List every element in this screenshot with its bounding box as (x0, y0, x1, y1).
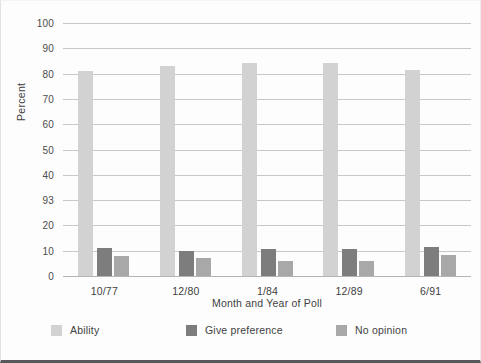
legend-item: No opinion (336, 324, 407, 336)
y-axis-tick-label: 80 (42, 68, 54, 79)
x-axis-tick-label: 1/84 (223, 285, 313, 297)
x-axis-tick-label: 6/91 (386, 285, 476, 297)
bar (242, 63, 257, 276)
bar (424, 247, 439, 276)
bar (342, 249, 357, 276)
y-axis-tick-label: 20 (42, 220, 54, 231)
x-axis-tick-label: 12/89 (304, 285, 394, 297)
bar (359, 261, 374, 276)
y-axis-tick-label: 93 (42, 195, 54, 206)
x-axis-tick-label: 12/80 (141, 285, 231, 297)
bar (278, 261, 293, 276)
bar-group: 10/77 (78, 23, 129, 276)
legend-item: Give preference (186, 324, 283, 336)
bar-groups: 10/7712/801/8412/896/91 (63, 23, 471, 276)
bar (114, 256, 129, 276)
bar (78, 71, 93, 276)
y-axis-tick-label: 10 (42, 245, 54, 256)
legend-item: Ability (51, 324, 99, 336)
bar (160, 66, 175, 276)
x-axis-title: Month and Year of Poll (63, 297, 471, 309)
legend-label: Ability (70, 324, 99, 336)
gridline (63, 276, 471, 277)
legend-label: No opinion (355, 324, 407, 336)
legend-swatch (336, 325, 347, 336)
legend-label: Give preference (205, 324, 283, 336)
y-axis-tick-label: 90 (42, 43, 54, 54)
bar-group: 12/80 (160, 23, 211, 276)
y-axis-tick-label: 0 (48, 271, 54, 282)
bar (97, 248, 112, 276)
legend-swatch (51, 325, 62, 336)
x-axis-tick-label: 10/77 (59, 285, 149, 297)
legend-swatch (186, 325, 197, 336)
bar (405, 70, 420, 276)
y-axis-tick-label: 50 (42, 144, 54, 155)
bar (261, 249, 276, 276)
plot-area: 0102093405060708090100 10/7712/801/8412/… (63, 23, 471, 276)
bar-group: 6/91 (405, 23, 456, 276)
bar (179, 251, 194, 276)
y-axis-tick-label: 100 (37, 18, 54, 29)
bar (196, 258, 211, 276)
bar (441, 255, 456, 277)
y-axis-tick-label: 70 (42, 93, 54, 104)
legend: AbilityGive preferenceNo opinion (51, 324, 451, 344)
y-axis-title: Percent (15, 83, 27, 121)
bar (323, 63, 338, 276)
y-axis-tick-label: 40 (42, 169, 54, 180)
bar-group: 12/89 (323, 23, 374, 276)
y-axis-tick-label: 60 (42, 119, 54, 130)
bar-group: 1/84 (242, 23, 293, 276)
bar-chart-figure: 0102093405060708090100 10/7712/801/8412/… (0, 0, 481, 363)
